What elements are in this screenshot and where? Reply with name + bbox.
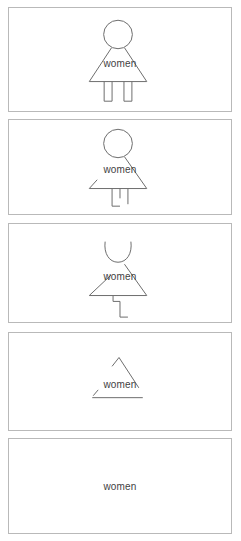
frame-3-label: women [9, 271, 231, 282]
frame-panel-5: women [8, 438, 232, 534]
frame-1-label: women [9, 58, 231, 69]
frame-4-label: women [9, 379, 231, 390]
leg-right-icon [124, 82, 132, 102]
head-circle-icon [104, 129, 133, 157]
dress-left-stub-icon [89, 180, 97, 189]
frame-panel-3: women [8, 223, 232, 323]
frame-panel-4: women [8, 332, 232, 431]
leg-left-icon [104, 82, 112, 102]
frame-panel-2: women [8, 119, 232, 215]
frame-panel-1: women [8, 7, 232, 112]
dress-left-tick-icon [93, 390, 98, 396]
head-circle-broken-icon [105, 242, 131, 263]
frame-sequence: women women [0, 0, 241, 541]
dress-peak-fragment-icon [112, 357, 119, 366]
frame-5-label: women [9, 481, 231, 492]
frame-2-label: women [9, 164, 231, 175]
head-circle-icon [104, 20, 133, 48]
leg-remnant-icon [113, 296, 128, 318]
leg-left-stroke-icon [112, 189, 120, 207]
